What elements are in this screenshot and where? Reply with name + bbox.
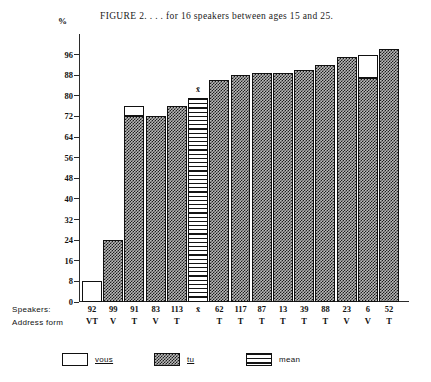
bar-segment-tu [252,73,272,302]
y-tick-0 [74,302,79,303]
bar-segment-tu [167,106,187,302]
x-axis-column-23: 23V [337,303,357,328]
x-label-speaker: 83 [146,303,166,315]
y-tick-80 [74,95,79,96]
y-tick-label-80: 80 [65,91,74,101]
bar-speaker-6[interactable] [358,55,378,302]
bar-segment-tu [379,49,399,302]
x-label-address-form: T [294,315,314,328]
y-tick-56 [74,157,79,158]
bar-segment-mean [188,98,208,302]
bar-segment-vous [124,106,144,116]
mean-marker-label: x̄ [188,85,208,94]
bar-speaker-83[interactable] [146,116,166,302]
x-axis-column-113: 113T [167,303,187,328]
y-tick-label-16: 16 [65,256,74,266]
plot-area: x̄ [79,34,409,302]
legend-label-vous: vous [95,355,113,364]
x-label-speaker: 92 [82,303,102,315]
bar-segment-tu [103,240,123,302]
bar-segment-vous [82,281,102,302]
bar-speaker-13[interactable] [273,73,293,302]
y-tick-label-88: 88 [65,70,74,80]
bar-speaker-52[interactable] [379,49,399,302]
y-axis-unit-label: % [58,16,67,26]
y-tick-label-0: 0 [69,297,73,307]
y-tick-label-56: 56 [65,153,74,163]
y-tick-40 [74,198,79,199]
y-tick-24 [74,240,79,241]
x-axis-column-87: 87T [252,303,272,328]
bar-speaker-88[interactable] [315,65,335,302]
x-label-speaker: 99 [103,303,123,315]
x-axis-labels: 92VT99V91T83V113Tx̄62T117T87T13T39T88T23… [80,303,410,335]
y-axis-line [79,34,80,302]
x-axis-column-91: 91T [124,303,144,328]
bar-speaker-23[interactable] [337,57,357,302]
bar-speaker-87[interactable] [252,73,272,302]
bar-segment-tu [315,65,335,302]
bar-segment-tu [146,116,166,302]
bar-speaker-113[interactable] [167,106,187,302]
y-tick-8 [74,281,79,282]
x-label-speaker: 88 [315,303,335,315]
x-label-address-form: T [273,315,293,328]
y-tick-48 [74,178,79,179]
legend-item-tu[interactable]: tu [154,353,194,366]
x-axis-column-83: 83V [146,303,166,328]
y-tick-label-24: 24 [65,235,74,245]
x-label-address-form: T [379,315,399,328]
row-label-address-form: Address form [12,318,63,327]
bar-segment-tu [231,75,251,302]
x-label-address-form: V [337,315,357,328]
x-label-speaker: 87 [252,303,272,315]
bar-speaker-117[interactable] [231,75,251,302]
x-axis-column-13: 13T [273,303,293,328]
legend-swatch-tu [154,353,180,366]
x-label-address-form: VT [82,315,102,328]
row-label-speakers: Speakers: [12,305,51,314]
x-label-address-form: T [209,315,229,328]
bar-segment-tu [358,78,378,302]
x-label-address-form: V [146,315,166,328]
x-label-address-form: V [103,315,123,328]
y-tick-label-32: 32 [65,215,74,225]
y-tick-label-8: 8 [69,276,73,286]
x-label-address-form: T [167,315,187,328]
x-label-address-form: T [315,315,335,328]
legend-swatch-vous [62,353,88,366]
y-tick-label-40: 40 [65,194,74,204]
x-label-speaker: x̄ [188,303,208,315]
bar-speaker-x̄[interactable] [188,98,208,302]
legend-item-vous[interactable]: vous [62,353,113,366]
y-tick-16 [74,260,79,261]
bar-speaker-92[interactable] [82,281,102,302]
x-label-speaker: 113 [167,303,187,315]
x-axis-column-52: 52T [379,303,399,328]
bar-segment-tu [273,73,293,302]
x-label-speaker: 39 [294,303,314,315]
y-tick-72 [74,116,79,117]
x-label-speaker: 117 [231,303,251,315]
y-tick-label-64: 64 [65,132,74,142]
bar-segment-tu [124,116,144,302]
x-label-address-form: T [124,315,144,328]
figure-container: FIGURE 2. . . . for 16 speakers between … [0,0,431,382]
bar-speaker-39[interactable] [294,70,314,302]
bar-speaker-62[interactable] [209,80,229,302]
y-axis-labels: 081624324048566472808896 [45,34,73,302]
x-label-address-form: T [252,315,272,328]
bar-speaker-91[interactable] [124,106,144,302]
legend-label-mean: mean [279,355,300,364]
legend-item-mean[interactable]: mean [246,353,300,366]
y-tick-64 [74,137,79,138]
x-axis-column-92: 92VT [82,303,102,328]
x-label-speaker: 91 [124,303,144,315]
x-label-address-form: V [358,315,378,328]
figure-title: FIGURE 2. . . . for 16 speakers between … [100,11,420,21]
x-axis-column-117: 117T [231,303,251,328]
bar-segment-tu [209,80,229,302]
bar-speaker-99[interactable] [103,240,123,302]
x-axis-column-6: 6V [358,303,378,328]
x-axis-column-99: 99V [103,303,123,328]
